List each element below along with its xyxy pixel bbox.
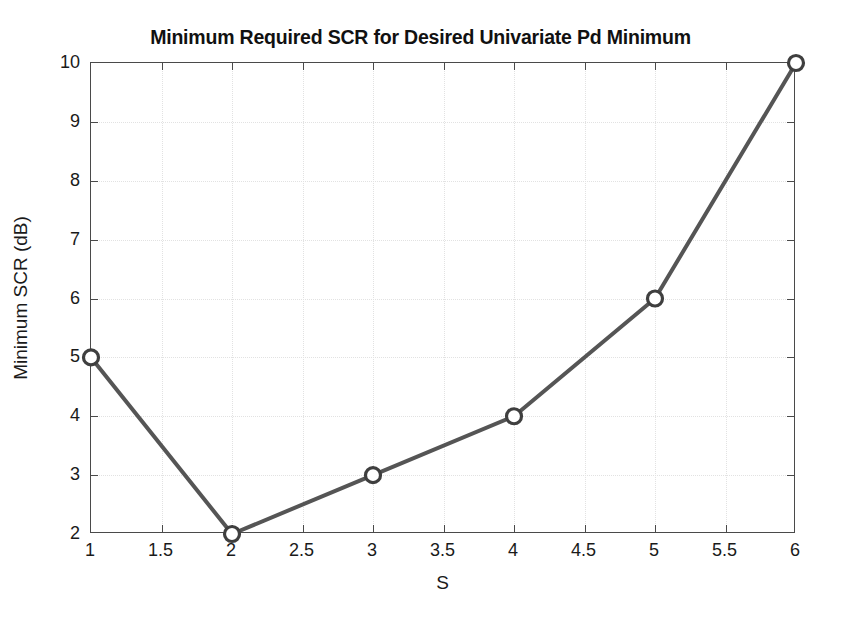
- y-axis-label: Minimum SCR (dB): [6, 62, 36, 533]
- y-tick-label: 3: [70, 464, 80, 485]
- y-tick-label: 4: [70, 405, 80, 426]
- x-tick-label: 3.5: [430, 540, 455, 561]
- series-line: [91, 63, 796, 534]
- chart-title: Minimum Required SCR for Desired Univari…: [0, 26, 841, 49]
- plot-area: [90, 62, 795, 533]
- x-tick-label: 1.5: [148, 540, 173, 561]
- data-point-marker: [84, 350, 99, 365]
- x-tick-label: 3: [367, 540, 377, 561]
- data-point-marker: [789, 56, 804, 71]
- y-tick-label: 6: [70, 287, 80, 308]
- x-tick-label: 5.5: [712, 540, 737, 561]
- y-axis-label-text: Minimum SCR (dB): [10, 216, 32, 380]
- x-tick-label: 2.5: [289, 540, 314, 561]
- x-tick-label: 4.5: [571, 540, 596, 561]
- x-tick-label: 6: [790, 540, 800, 561]
- series-markers: [84, 56, 804, 542]
- data-series-layer: [91, 63, 796, 534]
- x-tick-label: 1: [85, 540, 95, 561]
- chart-figure: Minimum Required SCR for Desired Univari…: [0, 0, 841, 620]
- x-axis-label: S: [90, 572, 795, 594]
- data-point-marker: [366, 468, 381, 483]
- y-tick-label: 9: [70, 110, 80, 131]
- y-tick-label: 5: [70, 346, 80, 367]
- y-tick-label: 2: [70, 523, 80, 544]
- x-tick-label: 5: [649, 540, 659, 561]
- y-tick-label: 10: [60, 52, 80, 73]
- data-point-marker: [648, 291, 663, 306]
- y-tick-label: 8: [70, 169, 80, 190]
- data-point-marker: [507, 409, 522, 424]
- y-tick-label: 7: [70, 228, 80, 249]
- x-tick-label: 2: [226, 540, 236, 561]
- x-tick-label: 4: [508, 540, 518, 561]
